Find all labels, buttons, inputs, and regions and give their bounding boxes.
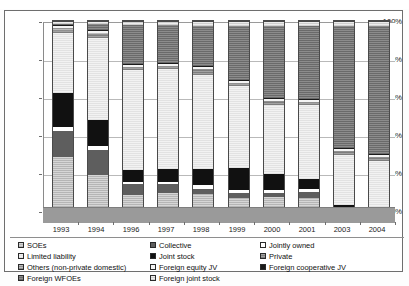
segment-collective [88, 150, 108, 175]
segment-foreign-wfoes [299, 26, 319, 99]
legend-label: Foreign WFOEs [27, 274, 81, 283]
legend-item[interactable]: Foreign cooperative JV [260, 262, 346, 272]
legend-label: Collective [159, 241, 192, 250]
segment-foreign-wfoes [193, 26, 213, 66]
segment-limited-liability [88, 38, 108, 120]
legend-swatch-icon [18, 264, 24, 270]
segment-limited-liability [299, 105, 319, 179]
segment-joint-stock [53, 93, 73, 127]
bar-1997 [157, 20, 179, 222]
segment-limited-liability [264, 105, 284, 174]
chart-frame: 100% 80% 60% 40% 20% 0% 1993199419961997… [4, 10, 403, 272]
segment-joint-stock [264, 174, 284, 190]
legend-item[interactable]: Foreign equity JV [150, 262, 220, 272]
legend-label: Jointly owned [269, 241, 314, 250]
segment-joint-stock [158, 169, 178, 182]
y-tick-mark [39, 174, 42, 175]
segment-joint-stock [88, 120, 108, 146]
x-tick-label: 1998 [186, 225, 216, 234]
segment-limited-liability [123, 70, 143, 170]
scan-margin [0, 0, 409, 9]
legend-swatch-icon [260, 242, 266, 248]
segment-limited-liability [53, 33, 73, 93]
segment-foreign-wfoes [229, 26, 249, 80]
legend-item[interactable]: Collective [150, 240, 220, 250]
x-tick-label: 1993 [46, 225, 76, 234]
bar-1999 [228, 20, 250, 222]
legend-item[interactable]: Private [260, 251, 346, 261]
x-tick-label: 2000 [257, 225, 287, 234]
legend-label: Private [269, 252, 292, 261]
legend-swatch-icon [150, 264, 156, 270]
legend-column: CollectiveJoint stockForeign equity JVFo… [150, 240, 220, 284]
y-tick-mark [39, 212, 42, 213]
bar-2003 [333, 20, 355, 222]
segment-limited-liability [334, 155, 354, 205]
legend-column: Jointly ownedPrivateForeign cooperative … [260, 240, 346, 273]
segment-joint-stock [193, 169, 213, 185]
x-tick-mark [254, 222, 255, 225]
legend-swatch-icon [260, 264, 266, 270]
legend-label: Foreign equity JV [159, 263, 217, 272]
legend-label: Others (non-private domestic) [27, 263, 126, 272]
x-tick-label: 2004 [362, 225, 392, 234]
bar-1994 [87, 20, 109, 222]
legend-item[interactable]: Others (non-private domestic) [18, 262, 126, 272]
bar-2004 [368, 20, 390, 222]
legend-swatch-icon [150, 253, 156, 259]
plot-area [43, 22, 395, 222]
x-tick-mark [360, 222, 361, 225]
segment-joint-stock [229, 168, 249, 190]
x-tick-label: 1997 [151, 225, 181, 234]
legend-item[interactable]: SOEs [18, 240, 126, 250]
x-tick-label: 2001 [292, 225, 322, 234]
x-tick-mark [184, 222, 185, 225]
legend-swatch-icon [150, 242, 156, 248]
legend-swatch-icon [260, 253, 266, 259]
x-tick-mark [113, 222, 114, 225]
bar-1993 [52, 20, 74, 222]
legend-label: Limited liability [27, 252, 76, 261]
chart-screenshot: 100% 80% 60% 40% 20% 0% 1993199419961997… [0, 0, 409, 286]
legend-item[interactable]: Limited liability [18, 251, 126, 261]
segment-limited-liability [193, 75, 213, 169]
legend-label: Joint stock [159, 252, 194, 261]
x-tick-mark [289, 222, 290, 225]
legend-label: Foreign cooperative JV [269, 263, 346, 272]
segment-collective [123, 184, 143, 195]
x-tick-label: 1999 [222, 225, 252, 234]
bar-1996 [122, 20, 144, 222]
bar-2000 [263, 20, 285, 222]
y-tick-mark [39, 98, 42, 99]
segment-collective [158, 184, 178, 193]
segment-foreign-wfoes [123, 25, 143, 64]
segment-limited-liability [369, 161, 389, 209]
legend-swatch-icon [18, 242, 24, 248]
segment-foreign-wfoes [369, 26, 389, 154]
legend-item[interactable]: Joint stock [150, 251, 220, 261]
x-tick-mark [325, 222, 326, 225]
segment-foreign-wfoes [334, 26, 354, 148]
legend: SOEsLimited liabilityOthers (non-private… [10, 237, 404, 281]
x-tick-mark [149, 222, 150, 225]
segment-foreign-wfoes [158, 25, 178, 63]
legend-label: Foreign joint stock [159, 274, 220, 283]
x-tick-mark [78, 222, 79, 225]
segment-joint-stock [123, 170, 143, 182]
segment-joint-stock [299, 179, 319, 189]
chart-floor-band [43, 207, 395, 223]
segment-collective [53, 131, 73, 157]
legend-item[interactable]: Foreign joint stock [150, 273, 220, 283]
y-tick-mark [39, 136, 42, 137]
legend-column: SOEsLimited liabilityOthers (non-private… [18, 240, 126, 284]
segment-limited-liability [229, 86, 249, 168]
legend-swatch-icon [18, 253, 24, 259]
x-tick-label: 1994 [81, 225, 111, 234]
legend-swatch-icon [18, 275, 24, 281]
legend-item[interactable]: Jointly owned [260, 240, 346, 250]
x-tick-label: 2003 [327, 225, 357, 234]
segment-foreign-wfoes [264, 26, 284, 98]
legend-label: SOEs [27, 241, 47, 250]
legend-item[interactable]: Foreign WFOEs [18, 273, 126, 283]
y-tick-mark [39, 60, 42, 61]
